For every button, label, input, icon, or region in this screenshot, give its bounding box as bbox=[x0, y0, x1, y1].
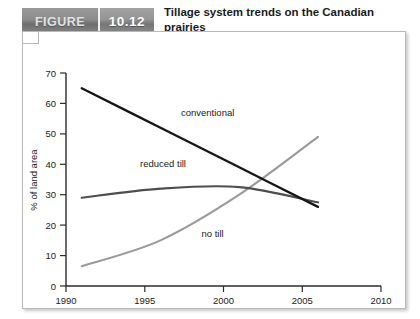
x-tick-label-2000: 2000 bbox=[213, 295, 234, 306]
series-label-conventional: conventional bbox=[181, 107, 234, 118]
x-tick-label-2010: 2010 bbox=[370, 295, 391, 306]
series-label-reduced-till: reduced till bbox=[140, 158, 186, 169]
y-tick-label-50: 50 bbox=[45, 128, 56, 139]
figure-root: FIGURE 10.12 Tillage system trends on th… bbox=[0, 0, 420, 319]
series-line-no-till bbox=[82, 137, 318, 266]
series-label-no-till: no till bbox=[201, 228, 223, 239]
x-tick-label-1990: 1990 bbox=[55, 295, 76, 306]
y-axis-ticks bbox=[60, 73, 66, 286]
y-tick-label-40: 40 bbox=[45, 159, 56, 170]
chart-plot: 0 10 20 30 40 50 60 70 % of land area 19… bbox=[23, 32, 407, 310]
y-tick-label-0: 0 bbox=[51, 281, 56, 292]
y-tick-label-10: 10 bbox=[45, 250, 56, 261]
x-axis-ticks bbox=[66, 286, 381, 292]
y-tick-label-70: 70 bbox=[45, 68, 56, 79]
figure-panel: 0 10 20 30 40 50 60 70 % of land area 19… bbox=[22, 31, 406, 309]
x-tick-label-1995: 1995 bbox=[134, 295, 155, 306]
y-axis-title: % of land area bbox=[28, 149, 39, 211]
x-tick-label-2005: 2005 bbox=[292, 295, 313, 306]
y-tick-label-60: 60 bbox=[45, 98, 56, 109]
y-tick-label-20: 20 bbox=[45, 220, 56, 231]
y-tick-label-30: 30 bbox=[45, 189, 56, 200]
